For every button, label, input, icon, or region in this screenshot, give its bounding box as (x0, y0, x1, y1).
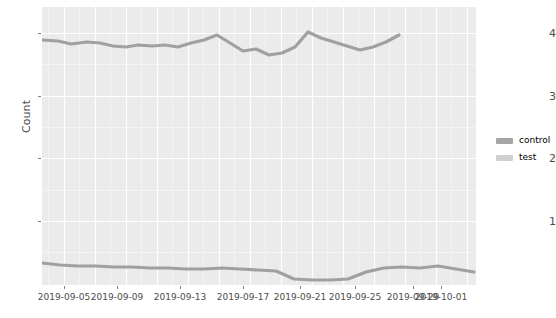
legend-item-test[interactable]: test (496, 150, 554, 165)
y-tick-label-1: 1 (526, 215, 556, 228)
x-tick-mark-3 (180, 286, 181, 289)
x-tick-label-2019-09-25: 2019-09-25 (329, 292, 381, 302)
x-tick-mark-2 (117, 286, 118, 289)
y-tick-label-4: 4 (526, 27, 556, 40)
y-tick-mark-4 (38, 33, 41, 34)
legend-label-test: test (519, 153, 536, 162)
chart-container: Count 4 3 2 1 2019-09-05 2019-09-09 2019… (0, 0, 556, 318)
x-tick-label-2019-09-13: 2019-09-13 (154, 292, 206, 302)
legend-item-control[interactable]: control (496, 133, 554, 148)
x-tick-label-2019-09-05: 2019-09-05 (38, 292, 90, 302)
legend-key-test (496, 155, 513, 161)
x-tick-mark-8 (441, 286, 442, 289)
x-tick-mark-5 (300, 286, 301, 289)
x-tick-mark-6 (355, 286, 356, 289)
legend-label-control: control (519, 136, 550, 145)
plot-svg (42, 7, 476, 285)
x-tick-mark-1 (64, 286, 65, 289)
legend-key-control (496, 138, 513, 144)
y-tick-label-3: 3 (526, 90, 556, 103)
y-tick-mark-1 (38, 221, 41, 222)
x-tick-label-2019-09-21: 2019-09-21 (274, 292, 326, 302)
y-axis-title: Count (20, 77, 33, 157)
x-tick-mark-7 (413, 286, 414, 289)
series-line-test (42, 263, 474, 280)
x-tick-mark-4 (243, 286, 244, 289)
plot-panel (42, 7, 476, 285)
y-tick-mark-3 (38, 96, 41, 97)
x-tick-label-2019-09-17: 2019-09-17 (217, 292, 269, 302)
y-tick-mark-2 (38, 158, 41, 159)
x-tick-label-2019-09-09: 2019-09-09 (91, 292, 143, 302)
x-tick-label-2019-10-01: 2019-10-01 (415, 292, 467, 302)
chart-legend: control test (496, 133, 554, 167)
